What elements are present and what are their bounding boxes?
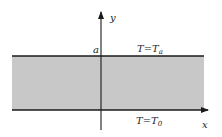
bottom-boundary-condition: T=T0 xyxy=(136,115,163,128)
x-axis-label: x xyxy=(202,119,208,130)
height-marker-a: a xyxy=(93,44,99,55)
diagram-canvas: y x a T=Ta T=T0 xyxy=(0,0,222,137)
top-boundary-condition: T=Ta xyxy=(137,43,163,56)
y-axis-label: y xyxy=(109,12,116,23)
slab-region xyxy=(12,56,204,110)
